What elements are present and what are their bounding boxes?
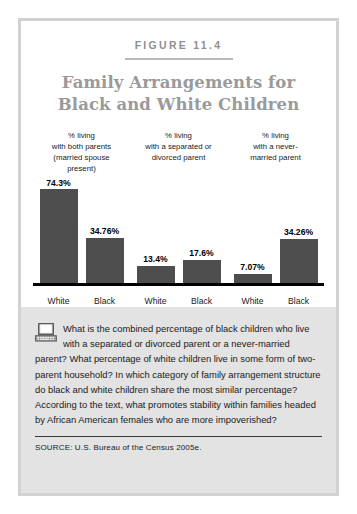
- header-line: with a separated or: [130, 141, 227, 152]
- header-line: % living: [130, 130, 227, 141]
- bar-group-never-married: 7.07% 34.26%: [227, 178, 324, 283]
- bar-item: 17.6%: [183, 178, 221, 283]
- bar-value-label: 34.76%: [90, 226, 119, 236]
- figure-title: Family Arrangements for Black and White …: [21, 72, 336, 116]
- figure-title-line-1: Family Arrangements for: [21, 72, 336, 94]
- header-line: (married spouse: [33, 152, 130, 163]
- column-headers: % living with both parents (married spou…: [33, 130, 324, 178]
- figure-header-divider: [125, 58, 233, 60]
- bar-value-label: 13.4%: [143, 254, 167, 264]
- header-line: with both parents: [33, 141, 130, 152]
- axis-label-group: White Black: [130, 296, 227, 306]
- header-line: with a never-: [227, 141, 324, 152]
- bar: [86, 238, 124, 283]
- question-text: What is the combined percentage of black…: [35, 321, 322, 428]
- axis-tick-label: Black: [280, 296, 318, 306]
- plot-area: 74.3% 34.76% 13.4% 17.6%: [33, 178, 324, 308]
- header-line: divorced parent: [130, 152, 227, 163]
- bar-value-label: 34.26%: [284, 227, 313, 237]
- axis-label-group: White Black: [33, 296, 130, 306]
- axis-tick-label: Black: [86, 296, 124, 306]
- bar: [183, 260, 221, 283]
- bar-item: 34.76%: [86, 178, 124, 283]
- figure-frame: FIGURE 11.4 Family Arrangements for Blac…: [18, 18, 339, 496]
- bar: [234, 274, 272, 283]
- axis-tick-label: White: [234, 296, 272, 306]
- axis-tick-label: White: [40, 296, 78, 306]
- bar: [40, 189, 78, 283]
- bar-item: 13.4%: [137, 178, 175, 283]
- header-line: married parent: [227, 152, 324, 163]
- bar-group-both-parents: 74.3% 34.76%: [33, 178, 130, 283]
- bar: [280, 239, 318, 283]
- column-header-both-parents: % living with both parents (married spou…: [33, 130, 130, 178]
- source-text: SOURCE: U.S. Bureau of the Census 2005e.: [35, 443, 322, 452]
- bar-item: 74.3%: [40, 178, 78, 283]
- question-body: What is the combined percentage of black…: [35, 323, 321, 425]
- bar-value-label: 7.07%: [240, 262, 264, 272]
- x-axis-line: [33, 283, 324, 286]
- header-line: present): [33, 163, 130, 174]
- bar-chart: % living with both parents (married spou…: [33, 130, 324, 316]
- x-axis-labels: White Black White Black White Black: [33, 296, 324, 306]
- bar-item: 7.07%: [234, 178, 272, 283]
- bar-group-separated-divorced: 13.4% 17.6%: [130, 178, 227, 283]
- figure-number-label: FIGURE 11.4: [21, 21, 336, 51]
- question-panel: What is the combined percentage of black…: [21, 307, 336, 493]
- computer-icon: [35, 323, 57, 342]
- figure-title-line-2: Black and White Children: [21, 94, 336, 116]
- bar-value-label: 74.3%: [46, 178, 70, 188]
- bar-item: 34.26%: [280, 178, 318, 283]
- column-header-separated-divorced: % living with a separated or divorced pa…: [130, 130, 227, 178]
- bar-value-label: 17.6%: [189, 248, 213, 258]
- axis-tick-label: Black: [183, 296, 221, 306]
- axis-tick-label: White: [137, 296, 175, 306]
- header-line: % living: [33, 130, 130, 141]
- column-header-never-married: % living with a never- married parent: [227, 130, 324, 178]
- bar: [137, 266, 175, 283]
- axis-label-group: White Black: [227, 296, 324, 306]
- header-line: % living: [227, 130, 324, 141]
- source-divider: [35, 436, 322, 438]
- bar-groups: 74.3% 34.76% 13.4% 17.6%: [33, 178, 324, 283]
